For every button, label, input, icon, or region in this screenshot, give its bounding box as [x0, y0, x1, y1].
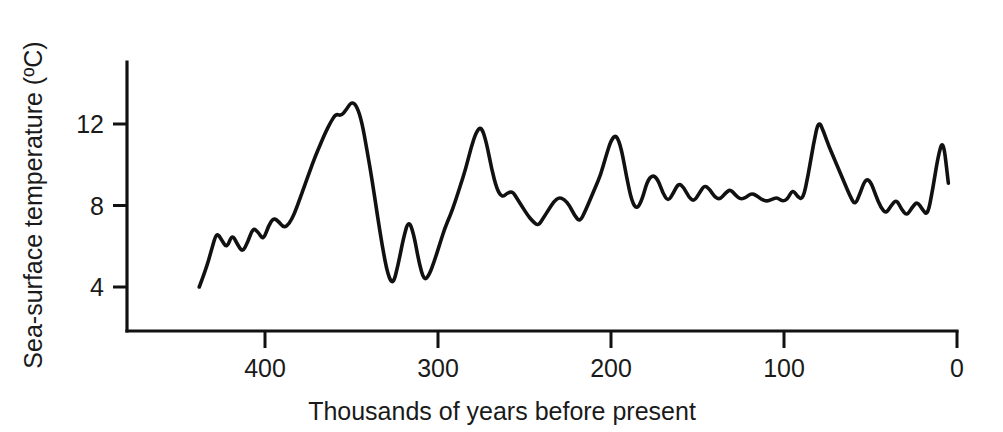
- sea-surface-temperature-line-chart: Sea-surface temperature (ºC) 12 8 4 400: [0, 0, 1003, 432]
- x-axis-tick-labels: 400 300 200 100 0: [244, 354, 964, 382]
- y-axis-tick-labels: 12 8 4: [76, 110, 104, 301]
- x-tick-label-100: 100: [763, 354, 805, 382]
- chart-figure: Sea-surface temperature (ºC) 12 8 4 400: [0, 0, 1003, 432]
- x-axis-ticks: [265, 331, 957, 348]
- x-tick-label-200: 200: [590, 354, 632, 382]
- x-axis-title: Thousands of years before present: [308, 397, 696, 425]
- x-tick-label-300: 300: [417, 354, 459, 382]
- x-tick-label-400: 400: [244, 354, 286, 382]
- x-tick-label-0: 0: [950, 354, 964, 382]
- y-tick-label-4: 4: [90, 273, 104, 301]
- y-axis-ticks: [113, 124, 127, 287]
- y-axis-title: Sea-surface temperature (ºC): [19, 41, 47, 368]
- y-tick-label-12: 12: [76, 110, 104, 138]
- y-tick-label-8: 8: [90, 192, 104, 220]
- temperature-series-line: [199, 103, 948, 287]
